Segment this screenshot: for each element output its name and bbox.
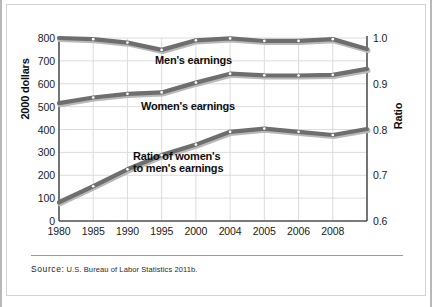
data-point-marker	[263, 74, 266, 77]
y-axis-left-tick-label: 300	[38, 146, 55, 158]
footer-divider	[31, 255, 403, 256]
series-line	[59, 69, 367, 103]
data-point-marker	[160, 91, 163, 94]
figure-container: 2000 dollars Ratio 800700600500400300200…	[0, 0, 432, 307]
ratio-series-label: Ratio of women's to men's earnings	[133, 150, 223, 174]
x-axis-tick-label: 1980	[48, 225, 71, 237]
y-axis-left-tick-label: 500	[38, 101, 55, 113]
x-axis-tick-label: 2008	[321, 225, 344, 237]
data-point-marker	[126, 168, 129, 171]
data-point-marker	[229, 37, 232, 40]
y-axis-left-ticks: 8007006005004003002001000	[21, 38, 55, 221]
y-axis-right-tick-label: 1.0	[373, 32, 387, 44]
series-1	[59, 37, 368, 51]
y-axis-right-tick-label: 0.6	[373, 215, 387, 227]
plot-area: Men's earnings Women's earnings Ratio of…	[59, 38, 367, 221]
frame-edge-left	[0, 0, 2, 307]
men-series-label: Men's earnings	[155, 54, 232, 66]
x-axis-tick-label: 1995	[150, 225, 173, 237]
y-axis-left-tick-label: 800	[38, 32, 55, 44]
y-axis-left-tick-label: 400	[38, 124, 55, 136]
data-point-marker	[331, 134, 334, 137]
y-axis-right-tick-label: 0.9	[373, 78, 387, 90]
x-axis-tick-label: 2005	[253, 225, 276, 237]
x-axis-tick-label: 1990	[116, 225, 139, 237]
x-axis-tick-label: 2006	[287, 225, 310, 237]
x-axis-tick-label: 2000	[184, 225, 207, 237]
data-point-marker	[229, 72, 232, 75]
data-point-marker	[229, 130, 232, 133]
data-point-marker	[263, 40, 266, 43]
data-point-marker	[331, 38, 334, 41]
x-axis-tick-label: 1985	[82, 225, 105, 237]
data-point-marker	[126, 41, 129, 44]
source-text: U.S. Bureau of Labor Statistics 2011b.	[67, 265, 198, 274]
x-axis-ticks: 198019851990199520002004200520062008	[59, 225, 367, 241]
data-point-marker	[195, 81, 198, 84]
data-point-marker	[126, 92, 129, 95]
chart-panel: 2000 dollars Ratio 800700600500400300200…	[6, 4, 426, 296]
data-point-marker	[297, 130, 300, 133]
data-point-marker	[263, 127, 266, 130]
data-point-marker	[331, 73, 334, 76]
x-axis-tick-label: 2004	[219, 225, 242, 237]
data-point-marker	[195, 39, 198, 42]
source-note: Source: U.S. Bureau of Labor Statistics …	[31, 264, 197, 274]
y-axis-right-tick-label: 0.7	[373, 169, 387, 181]
y-axis-left-tick-label: 200	[38, 169, 55, 181]
source-label: Source:	[31, 264, 65, 274]
data-point-marker	[297, 74, 300, 77]
y-axis-right-tick-label: 0.8	[373, 124, 387, 136]
data-point-marker	[92, 185, 95, 188]
data-point-marker	[92, 96, 95, 99]
data-point-marker	[92, 38, 95, 41]
data-point-marker	[195, 143, 198, 146]
y-axis-right-ticks: 1.00.90.80.70.6	[373, 38, 407, 221]
women-series-label: Women's earnings	[141, 100, 235, 112]
data-point-marker	[297, 40, 300, 43]
y-axis-left-tick-label: 700	[38, 55, 55, 67]
y-axis-left-tick-label: 100	[38, 192, 55, 204]
y-axis-left-tick-label: 600	[38, 78, 55, 90]
data-point-marker	[160, 49, 163, 52]
